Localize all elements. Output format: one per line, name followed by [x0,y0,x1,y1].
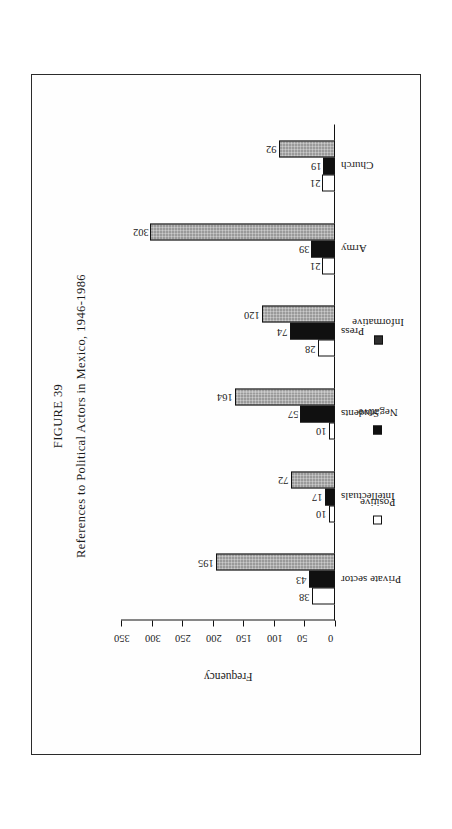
bar-value-label: 57 [288,407,299,419]
axis-tick-label: 100 [267,630,283,644]
bar-negative: 39 [311,240,335,257]
bar-informative: 164 [235,388,335,405]
bar-positive: 28 [318,339,335,356]
figure-canvas: FIGURE 39 References to Political Actors… [35,83,419,748]
axis-tick-mark [335,620,336,626]
bar-positive: 10 [329,505,335,522]
bar-value-label: 39 [299,242,310,254]
bar-negative: 74 [290,322,335,339]
axis-tick-mark [243,620,244,626]
bar-negative: 19 [323,157,335,174]
axis-tick-mark [304,620,305,626]
legend-label: Informative [352,316,404,328]
axis-tick-mark [182,620,183,626]
bar-value-label: 120 [244,308,260,320]
axis-tick-label: 200 [206,630,222,644]
figure-subtitle: References to Political Actors in Mexico… [74,83,89,748]
axis-tick-label: 150 [236,630,252,644]
legend-label: Negative [358,406,398,418]
bar-value-label: 10 [316,507,327,519]
bar-value-label: 72 [278,473,289,485]
bar-group: 101772Intellectuals [121,455,335,538]
bar-value-label: 195 [198,556,214,568]
bar-negative: 43 [309,570,335,587]
scanned-page-frame: FIGURE 39 References to Political Actors… [31,74,421,755]
legend-swatch-icon [374,335,383,344]
bar-value-label: 21 [310,259,321,271]
bar-value-label: 38 [299,590,310,602]
y-axis-caption: Frequency [121,666,335,686]
bar-informative: 195 [216,553,335,570]
bar-group: 1057164Students [121,372,335,455]
axis-tick-label: 50 [297,630,308,644]
axis-tick-label: 250 [175,630,191,644]
legend-item-informative: Informative [352,316,404,344]
bar-negative: 17 [325,488,335,505]
bar-value-label: 74 [277,325,288,337]
axis-tick-mark [121,620,122,626]
figure-number-title: FIGURE 39 [51,83,66,748]
bar-positive: 21 [322,174,335,191]
bar-value-label: 17 [312,490,323,502]
bar-value-label: 92 [266,142,277,154]
axis-tick-mark [274,620,275,626]
bar-informative: 120 [262,305,335,322]
chart-legend: PositiveNegativeInformative [355,124,401,620]
bar-value-label: 302 [133,225,149,237]
bar-value-label: 164 [217,390,233,402]
legend-item-positive: Positive [360,496,395,524]
legend-swatch-icon [373,425,382,434]
bar-positive: 21 [322,257,335,274]
y-axis-caption-text: Frequency [204,670,253,682]
legend-item-negative: Negative [358,406,398,434]
axis-tick-label: 350 [114,630,130,644]
bar-group: 2874120Press [121,289,335,372]
bar-group: 2139302Army [121,207,335,290]
axis-tick-mark [152,620,153,626]
bar-value-label: 21 [310,176,321,188]
axis-tick-mark [213,620,214,626]
bar-value-label: 19 [311,159,322,171]
axis-tick-label: 0 [328,630,333,644]
axis-tick-label: 300 [145,630,161,644]
bar-informative: 72 [291,471,335,488]
legend-label: Positive [360,496,395,508]
bar-group: 3843195Private sector [121,537,335,620]
plot-area: 050100150200250300350 3843195Private sec… [121,124,335,620]
bar-positive: 10 [329,422,335,439]
bar-negative: 57 [300,405,335,422]
bar-group: 211992Church [121,124,335,207]
bar-value-label: 10 [316,424,327,436]
bar-informative: 302 [150,223,335,240]
bar-informative: 92 [279,140,335,157]
bar-value-label: 43 [296,573,307,585]
bar-value-label: 28 [305,342,316,354]
bar-positive: 38 [312,587,335,604]
rotated-figure-wrapper: FIGURE 39 References to Political Actors… [32,75,422,756]
legend-swatch-icon [373,515,382,524]
